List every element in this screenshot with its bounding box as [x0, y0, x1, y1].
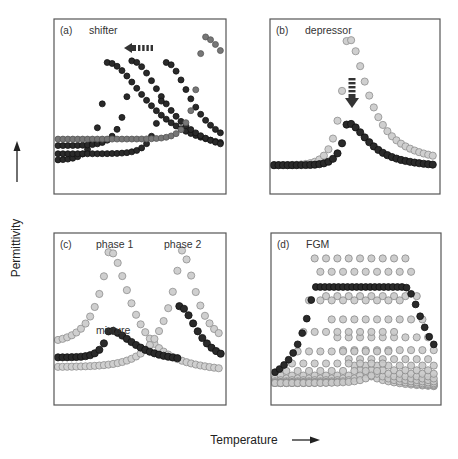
down-arrow-icon — [345, 78, 359, 108]
panel-d: (d)FGM — [271, 233, 441, 405]
panel-title-a: shifter — [89, 24, 118, 36]
right-arrow-icon — [310, 437, 320, 444]
panel-frame-c — [54, 233, 226, 405]
series-depressed — [270, 120, 436, 168]
panel-title-b: depressor — [305, 24, 352, 36]
series-phase-2 — [54, 247, 222, 371]
panel-label-b: (b) — [276, 25, 288, 36]
annotation-mixture: mixture — [96, 324, 131, 336]
panels: (a)shifter(b)depressor(c)phase 1phase 2m… — [54, 19, 441, 405]
y-axis-label-group: Permittivity — [9, 141, 23, 277]
panel-title-d: FGM — [306, 238, 329, 250]
panel-c: (c)phase 1phase 2mixture — [54, 233, 226, 405]
plot-area-c — [54, 247, 224, 372]
series-tc2 — [55, 58, 223, 149]
annotation-phase-1: phase 1 — [96, 238, 134, 250]
series-tc3 — [55, 59, 223, 156]
annotation-phase-2: phase 2 — [164, 238, 202, 250]
left-arrow-icon — [124, 43, 153, 53]
up-arrow-icon — [14, 141, 21, 151]
panel-label-d: (d) — [277, 239, 289, 250]
y-axis-label: Permittivity — [9, 219, 23, 278]
panel-b: (b)depressor — [270, 19, 440, 194]
panel-label-a: (a) — [60, 25, 72, 36]
plot-area-d — [271, 255, 437, 390]
plot-area-a — [55, 34, 223, 163]
figure: (a)shifter(b)depressor(c)phase 1phase 2m… — [0, 0, 458, 459]
x-axis-label: Temperature — [210, 433, 278, 447]
x-axis-label-group: Temperature — [210, 433, 320, 447]
panel-a: (a)shifter — [54, 19, 226, 194]
panel-label-c: (c) — [60, 239, 72, 250]
